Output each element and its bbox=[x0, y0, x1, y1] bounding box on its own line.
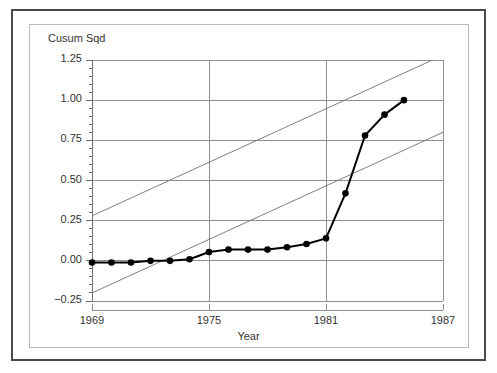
x-axis-line-group bbox=[92, 304, 443, 310]
data-point-marker bbox=[362, 132, 369, 139]
x-tick-label-1: 1975 bbox=[184, 314, 234, 326]
x-tick-label-0: 1969 bbox=[67, 314, 117, 326]
data-point-marker bbox=[342, 190, 349, 197]
x-axis-title: Year bbox=[0, 330, 497, 342]
y-tick-label-0: −0.25 bbox=[34, 293, 82, 305]
data-point-marker bbox=[147, 258, 154, 265]
y-tick-label-3: 0.50 bbox=[34, 173, 82, 185]
y-tick-label-4: 0.75 bbox=[34, 132, 82, 144]
data-point-marker bbox=[89, 259, 96, 266]
gridlines-group bbox=[92, 60, 443, 301]
data-point-marker bbox=[303, 241, 310, 248]
data-point-marker bbox=[128, 259, 135, 266]
y-tick-label-2: 0.25 bbox=[34, 213, 82, 225]
y-tick-label-5: 1.00 bbox=[34, 92, 82, 104]
data-point-marker bbox=[167, 258, 174, 265]
data-point-marker bbox=[186, 256, 193, 263]
data-series-line-group bbox=[92, 100, 404, 262]
significance-band-upper bbox=[92, 60, 432, 216]
data-series-markers-group bbox=[89, 97, 408, 266]
y-axis-title: Cusum Sqd bbox=[48, 32, 105, 44]
data-point-marker bbox=[323, 235, 330, 242]
data-point-marker bbox=[401, 97, 408, 104]
data-point-marker bbox=[206, 249, 213, 256]
data-point-marker bbox=[381, 111, 388, 118]
data-point-marker bbox=[245, 246, 252, 253]
x-tick-label-3: 1987 bbox=[418, 314, 468, 326]
significance-bands-group bbox=[92, 60, 443, 293]
y-tick-label-1: 0.00 bbox=[34, 253, 82, 265]
x-tick-label-2: 1981 bbox=[301, 314, 351, 326]
figure-canvas: Cusum Sqd Year −0.250.000.250.500.751.00… bbox=[0, 0, 497, 373]
y-tick-label-6: 1.25 bbox=[34, 52, 82, 64]
data-point-marker bbox=[225, 246, 232, 253]
significance-band-lower bbox=[92, 132, 443, 293]
data-point-marker bbox=[264, 246, 271, 253]
data-point-marker bbox=[108, 259, 115, 266]
data-point-marker bbox=[284, 244, 291, 251]
data-series-polyline bbox=[92, 100, 404, 262]
